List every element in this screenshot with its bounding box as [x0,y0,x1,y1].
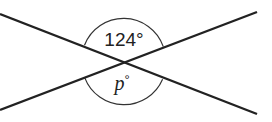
angle-label-p: p° [112,72,129,95]
line-b [0,12,257,110]
vertical-angles-diagram: 124° p° [0,0,272,122]
angle-label-124: 124° [104,29,143,50]
